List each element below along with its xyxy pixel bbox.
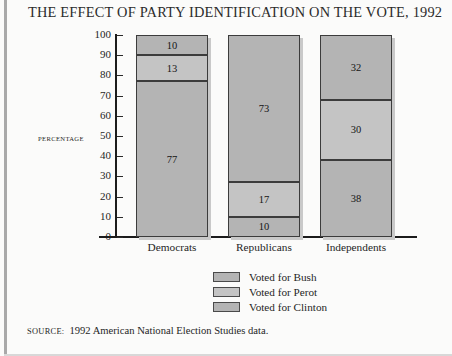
bar-segment: 30 [320, 100, 392, 161]
y-axis-tick-label: 90 [85, 48, 111, 60]
legend-label: Voted for Clinton [249, 301, 327, 313]
bar-segment: 10 [228, 217, 300, 237]
y-axis-tick [117, 237, 123, 238]
y-axis-tick-label: 40 [85, 149, 111, 161]
bar-segment: 13 [136, 55, 208, 81]
legend-item: Voted for Bush [213, 270, 327, 284]
figure-page: THE EFFECT OF PARTY IDENTIFICATION ON TH… [0, 0, 452, 356]
legend-swatch [213, 287, 240, 297]
bar-segment: 77 [136, 81, 208, 237]
source-note: SOURCE:1992 American National Election S… [27, 325, 268, 336]
bar-segment: 73 [228, 35, 300, 182]
y-axis-tick-label: 20 [85, 190, 111, 202]
y-axis-tick-label: 10 [85, 210, 111, 222]
bar-segment: 32 [320, 35, 392, 100]
bar-segment: 10 [136, 35, 208, 55]
y-axis-tick [117, 116, 123, 117]
legend-label: Voted for Perot [249, 286, 317, 298]
y-axis-tick-label: 60 [85, 109, 111, 121]
legend-item: Voted for Perot [213, 285, 327, 299]
y-axis-tick [117, 176, 123, 177]
y-axis-title: PERCENTAGE [38, 135, 84, 142]
category-label: Independents [298, 241, 414, 253]
legend-swatch [213, 302, 240, 312]
bar-segment: 17 [228, 182, 300, 216]
y-axis-tick-label: 100 [85, 28, 111, 40]
source-label: SOURCE: [27, 327, 64, 336]
y-axis-tick-label: 80 [85, 68, 111, 80]
y-axis-tick [117, 136, 123, 137]
chart-legend: Voted for BushVoted for PerotVoted for C… [213, 270, 327, 315]
bar-segment: 38 [320, 160, 392, 237]
y-axis-tick [117, 55, 123, 56]
bar-stack: 771310 [136, 35, 208, 237]
y-axis-tick-label: 0 [85, 230, 111, 242]
legend-item: Voted for Clinton [213, 300, 327, 314]
y-axis-tick [117, 217, 123, 218]
y-axis-tick [117, 75, 123, 76]
y-axis-tick [117, 197, 123, 198]
bar-stack: 383032 [320, 35, 392, 237]
bar-stack: 101773 [228, 35, 300, 237]
source-text: 1992 American National Election Studies … [69, 325, 268, 336]
legend-label: Voted for Bush [249, 271, 317, 283]
y-axis-tick-label: 30 [85, 169, 111, 181]
y-axis-tick [117, 35, 123, 36]
legend-swatch [213, 272, 240, 282]
y-axis-tick-label: 50 [85, 129, 111, 141]
y-axis-tick [117, 96, 123, 97]
y-axis-tick [117, 156, 123, 157]
y-axis-tick-label: 70 [85, 89, 111, 101]
